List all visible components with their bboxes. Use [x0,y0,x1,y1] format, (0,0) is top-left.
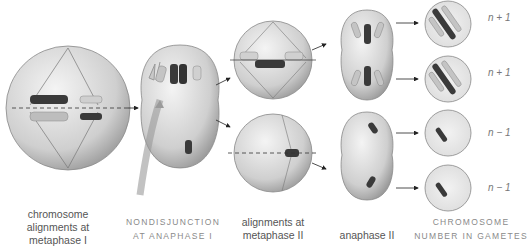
metaphase-2-top-cell [230,21,326,99]
stage-label-anaphase-2: anaphase II [332,229,402,242]
gamete-3 [425,110,471,156]
stage-label-metaphase-2: alignments at metaphase II [233,216,313,242]
gamete-1 [425,1,471,47]
gamete-2-count-label: n + 1 [488,67,511,78]
nondisjunction-cell [140,45,230,195]
gamete-1-count-label: n + 1 [488,12,511,23]
gamete-4-count-label: n − 1 [488,182,511,193]
metaphase-1-cell [6,46,138,170]
stage-label-metaphase-1: chromosome alignments at metaphase I [18,208,98,247]
anaphase-2-bottom-cell [341,112,393,200]
gamete-3-count-label: n − 1 [488,127,511,138]
stage-label-nondisjunction: NONDISJUNCTION AT ANAPHASE I [118,215,228,243]
metaphase-2-bottom-cell [228,114,326,192]
anaphase-2-top-cell [341,10,393,100]
gamete-2 [425,56,471,102]
stage-label-gametes: CHROMOSOME NUMBER IN GAMETES [410,215,532,243]
gamete-4 [425,165,471,211]
